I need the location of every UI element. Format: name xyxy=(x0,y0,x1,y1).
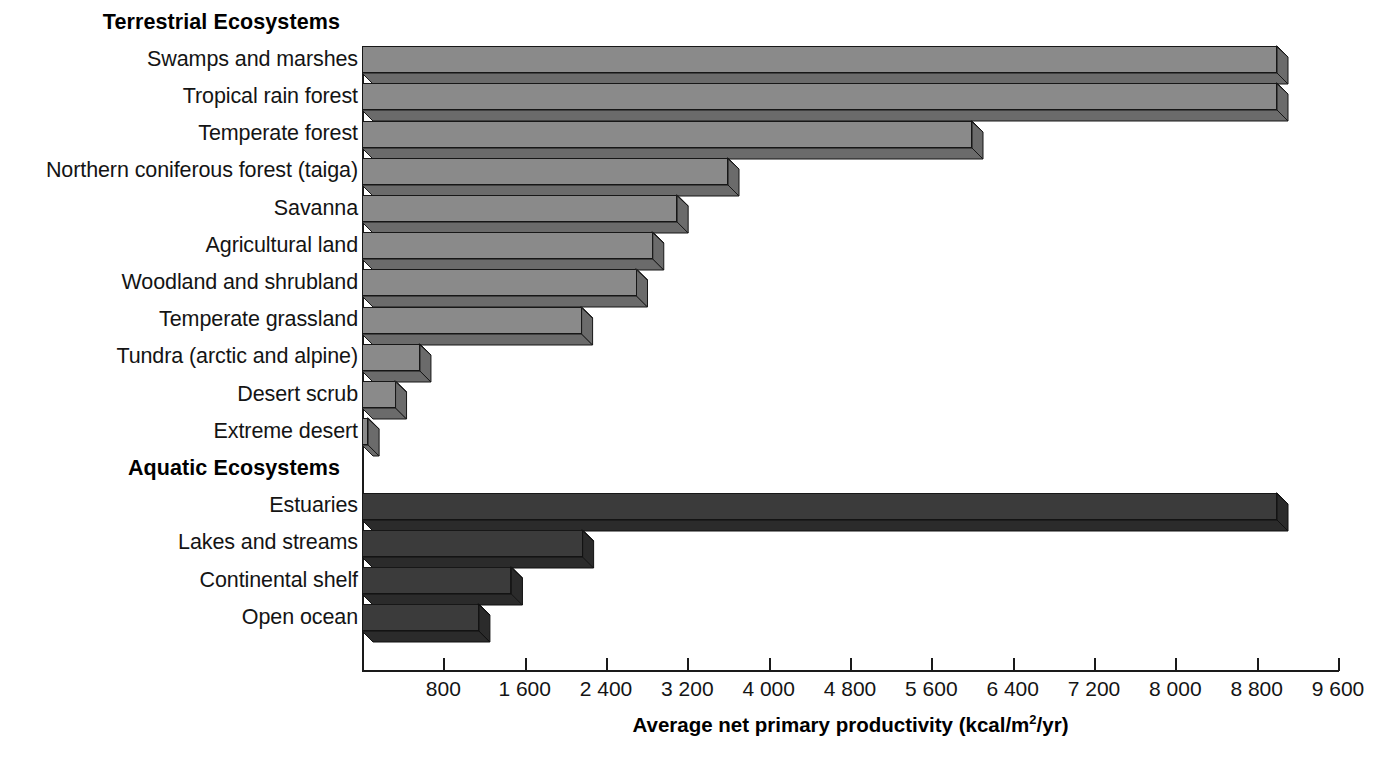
bar xyxy=(362,493,1277,520)
category-label: Swamps and marshes xyxy=(0,49,358,71)
bar xyxy=(362,418,368,445)
bar-3d-extrusion xyxy=(362,46,1290,86)
x-axis-tick xyxy=(525,658,527,671)
x-axis-tick-label: 8 800 xyxy=(1230,678,1283,699)
category-label: Open ocean xyxy=(0,607,358,629)
bar-3d-extrusion xyxy=(362,530,596,570)
category-label: Continental shelf xyxy=(0,570,358,592)
category-label: Tropical rain forest xyxy=(0,86,358,108)
category-label: Savanna xyxy=(0,198,358,220)
category-label: Tundra (arctic and alpine) xyxy=(0,346,358,368)
bar xyxy=(362,269,637,296)
category-label-column: Terrestrial EcosystemsSwamps and marshes… xyxy=(0,0,358,672)
category-label: Woodland and shrubland xyxy=(0,272,358,294)
category-label: Agricultural land xyxy=(0,235,358,257)
x-axis-tick xyxy=(769,658,771,671)
category-label: Estuaries xyxy=(0,495,358,517)
x-axis-tick-label: 5 600 xyxy=(905,678,958,699)
x-axis-tick-label: 4 800 xyxy=(824,678,877,699)
x-axis-tick-label: 7 200 xyxy=(1068,678,1121,699)
axis-title-superscript: 2 xyxy=(1029,712,1036,727)
bar-3d-extrusion xyxy=(362,418,381,458)
x-axis-tick-label: 3 200 xyxy=(661,678,714,699)
bar xyxy=(362,46,1277,73)
bar-3d-extrusion xyxy=(362,158,741,198)
bar xyxy=(362,158,728,185)
x-axis-tick xyxy=(931,658,933,671)
x-axis-tick-label: 4 000 xyxy=(742,678,795,699)
x-axis-tick xyxy=(1257,658,1259,671)
group-header-terrestrial: Terrestrial Ecosystems xyxy=(103,12,340,34)
x-axis-tick-label: 8 000 xyxy=(1149,678,1202,699)
bar-3d-extrusion xyxy=(362,121,985,161)
bar xyxy=(362,83,1277,110)
x-axis-title: Average net primary productivity (kcal/m… xyxy=(362,712,1339,737)
plot-area: 8001 6002 4003 2004 0004 8005 6006 4007 … xyxy=(362,0,1395,758)
bar-3d-extrusion xyxy=(362,567,524,607)
bar-3d-extrusion xyxy=(362,232,666,272)
productivity-bar-chart: Terrestrial EcosystemsSwamps and marshes… xyxy=(0,0,1395,758)
x-axis-tick-label: 6 400 xyxy=(986,678,1039,699)
bar xyxy=(362,604,479,631)
bar xyxy=(362,195,677,222)
bar-3d-extrusion xyxy=(362,604,492,644)
x-axis-tick xyxy=(1338,658,1340,671)
x-axis-tick-label: 9 600 xyxy=(1312,678,1365,699)
category-label: Northern coniferous forest (taiga) xyxy=(0,160,358,182)
category-label: Extreme desert xyxy=(0,421,358,443)
category-label: Lakes and streams xyxy=(0,532,358,554)
category-label: Desert scrub xyxy=(0,384,358,406)
x-axis-tick-label: 800 xyxy=(426,678,461,699)
x-axis-tick xyxy=(850,658,852,671)
bar-3d-extrusion xyxy=(362,83,1290,123)
bar xyxy=(362,530,583,557)
x-axis-tick xyxy=(1013,658,1015,671)
x-axis-tick-label: 1 600 xyxy=(498,678,551,699)
group-header-aquatic: Aquatic Ecosystems xyxy=(128,458,340,480)
category-label: Temperate grassland xyxy=(0,309,358,331)
bar-3d-extrusion xyxy=(362,381,409,421)
bar xyxy=(362,381,396,408)
x-axis-tick xyxy=(606,658,608,671)
bar xyxy=(362,344,420,371)
bar-3d-extrusion xyxy=(362,307,595,347)
bar xyxy=(362,567,511,594)
x-axis-tick xyxy=(443,658,445,671)
bar-3d-extrusion xyxy=(362,269,650,309)
bar-3d-extrusion xyxy=(362,493,1290,533)
bar xyxy=(362,232,653,259)
x-axis-tick-label: 2 400 xyxy=(580,678,633,699)
bar xyxy=(362,307,582,334)
bar-3d-extrusion xyxy=(362,344,433,384)
x-axis-tick xyxy=(1175,658,1177,671)
x-axis-tick xyxy=(687,658,689,671)
x-axis-tick xyxy=(1094,658,1096,671)
bar-3d-extrusion xyxy=(362,195,690,235)
bar xyxy=(362,121,972,148)
category-label: Temperate forest xyxy=(0,123,358,145)
